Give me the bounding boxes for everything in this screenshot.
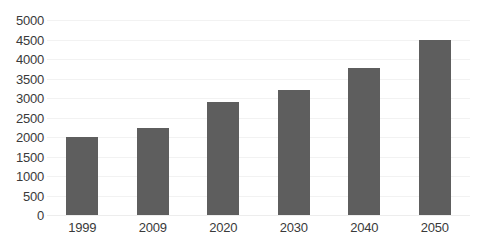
x-tick-label: 2050 <box>400 220 471 240</box>
bar <box>66 137 98 215</box>
bar-group <box>47 20 118 215</box>
bar-group <box>329 20 400 215</box>
bar-group <box>259 20 330 215</box>
y-tick-label: 2000 <box>16 131 44 144</box>
y-tick-label: 1500 <box>16 150 44 163</box>
y-tick-label: 4000 <box>16 53 44 66</box>
bar <box>207 102 239 215</box>
bar <box>278 90 310 215</box>
bar-group <box>188 20 259 215</box>
bar-group <box>400 20 471 215</box>
bars-container <box>47 20 470 215</box>
axis-baseline <box>47 215 470 216</box>
y-tick-label: 1000 <box>16 170 44 183</box>
x-axis: 199920092020203020402050 <box>47 220 470 240</box>
y-tick-label: 4500 <box>16 33 44 46</box>
y-tick-label: 3500 <box>16 72 44 85</box>
bar <box>348 68 380 215</box>
x-tick-label: 1999 <box>47 220 118 240</box>
x-tick-label: 2040 <box>329 220 400 240</box>
bar <box>137 128 169 215</box>
bar <box>419 40 451 216</box>
bar-group <box>118 20 189 215</box>
y-tick-label: 0 <box>37 209 44 222</box>
y-tick-label: 500 <box>23 189 44 202</box>
x-tick-label: 2020 <box>188 220 259 240</box>
y-axis: 5000450040003500300025002000150010005000 <box>0 20 44 215</box>
x-tick-label: 2009 <box>118 220 189 240</box>
y-tick-label: 2500 <box>16 111 44 124</box>
y-tick-label: 3000 <box>16 92 44 105</box>
y-tick-label: 5000 <box>16 14 44 27</box>
plot-area <box>47 20 470 215</box>
bar-chart: 5000450040003500300025002000150010005000… <box>0 0 485 249</box>
x-tick-label: 2030 <box>259 220 330 240</box>
